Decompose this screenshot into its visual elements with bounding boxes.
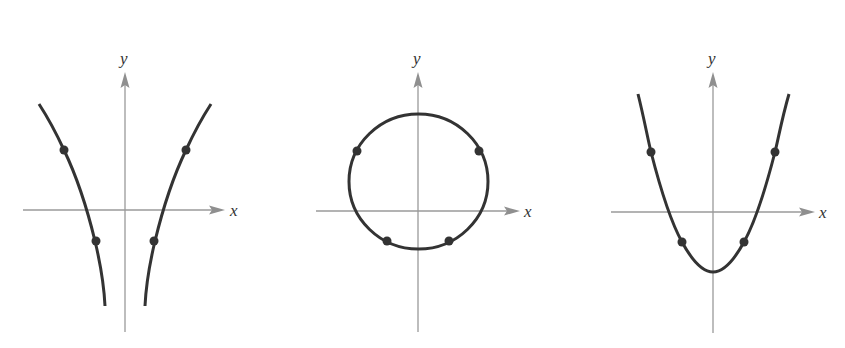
- panel-3-graph: x y: [611, 49, 827, 333]
- x-axis-label: x: [523, 202, 532, 221]
- point-marker: [475, 147, 484, 156]
- point-marker: [150, 237, 159, 246]
- x-axis-label: x: [229, 201, 238, 220]
- point-marker: [740, 238, 749, 247]
- point-marker: [647, 148, 656, 157]
- point-marker: [383, 237, 392, 246]
- y-axis-label: y: [706, 49, 716, 68]
- point-marker: [353, 147, 362, 156]
- panel-2-graph: x y: [316, 49, 532, 332]
- panel-1-graph: x y: [23, 49, 238, 332]
- point-marker: [182, 146, 191, 155]
- right-branch-curve: [145, 104, 211, 306]
- graph-figure: x y x y x y: [0, 0, 845, 348]
- point-marker: [60, 146, 69, 155]
- point-marker: [678, 238, 687, 247]
- point-marker: [445, 237, 454, 246]
- point-marker: [771, 148, 780, 157]
- y-axis-label: y: [411, 49, 421, 68]
- y-axis-label: y: [118, 49, 128, 68]
- point-marker: [92, 237, 101, 246]
- x-axis-label: x: [818, 203, 827, 222]
- left-branch-curve: [39, 104, 105, 306]
